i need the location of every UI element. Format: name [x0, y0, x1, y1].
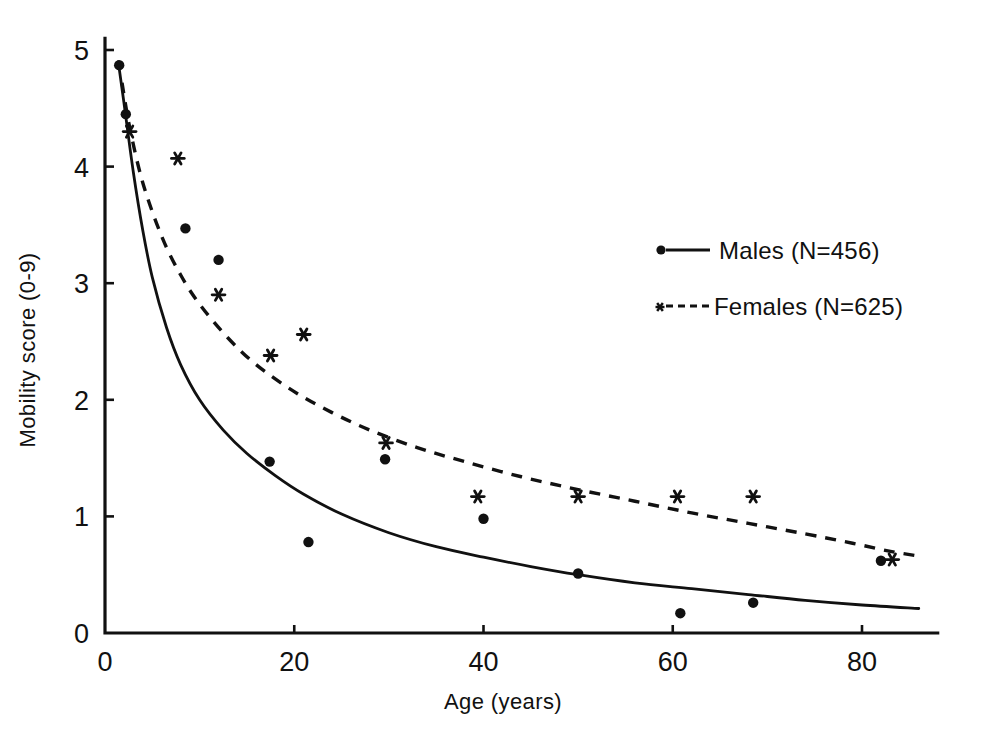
x-axis-tick-labels: 020406080 — [97, 647, 877, 677]
dot-marker — [876, 556, 886, 566]
y-tick-label: 5 — [74, 36, 89, 66]
legend-label-males: Males (N=456) — [719, 237, 880, 264]
dot-marker — [303, 537, 313, 547]
dot-marker — [380, 454, 390, 464]
y-tick-label: 4 — [74, 153, 89, 183]
dot-marker — [573, 568, 583, 578]
star-marker — [886, 554, 899, 565]
y-axis-title: Mobility score (0-9) — [15, 252, 40, 447]
star-marker — [747, 491, 760, 502]
x-tick-label: 60 — [658, 647, 688, 677]
x-tick-label: 20 — [279, 647, 309, 677]
star-marker — [572, 491, 585, 502]
star-marker — [380, 437, 393, 448]
legend-star-icon — [656, 303, 665, 311]
star-marker — [297, 329, 310, 340]
y-tick-label: 0 — [74, 619, 89, 649]
legend-dot-icon — [656, 245, 665, 254]
x-tick-label: 40 — [468, 647, 498, 677]
x-tick-label: 0 — [97, 647, 112, 677]
males-fit-curve — [118, 62, 919, 609]
dot-marker — [121, 109, 131, 119]
y-tick-label: 2 — [74, 386, 89, 416]
y-axis-tick-labels: 012345 — [74, 36, 89, 649]
dot-marker — [675, 608, 685, 618]
legend-label-females: Females (N=625) — [714, 293, 903, 320]
dot-marker — [478, 514, 488, 524]
star-marker — [212, 289, 225, 300]
plot-axes — [105, 38, 938, 633]
dot-marker — [180, 223, 190, 233]
plot-canvas: 020406080 012345 Age (years) Mobility sc… — [0, 0, 985, 749]
star-marker — [671, 491, 684, 502]
star-marker — [264, 350, 277, 361]
dot-marker — [114, 60, 124, 70]
y-tick-label: 1 — [74, 502, 89, 532]
legend-entry-males: Males (N=456) — [656, 237, 879, 264]
x-axis-title: Age (years) — [444, 689, 562, 714]
star-marker — [171, 153, 184, 164]
legend-entry-females: Females (N=625) — [656, 293, 904, 320]
x-tick-label: 80 — [847, 647, 877, 677]
dot-marker — [213, 255, 223, 265]
star-marker — [471, 491, 484, 502]
dot-marker — [264, 456, 274, 466]
females-data-points — [123, 126, 898, 565]
legend: Males (N=456) Females (N=625) — [656, 237, 904, 320]
chart-figure: 020406080 012345 Age (years) Mobility sc… — [0, 0, 985, 749]
y-tick-label: 3 — [74, 269, 89, 299]
dot-marker — [748, 597, 758, 607]
